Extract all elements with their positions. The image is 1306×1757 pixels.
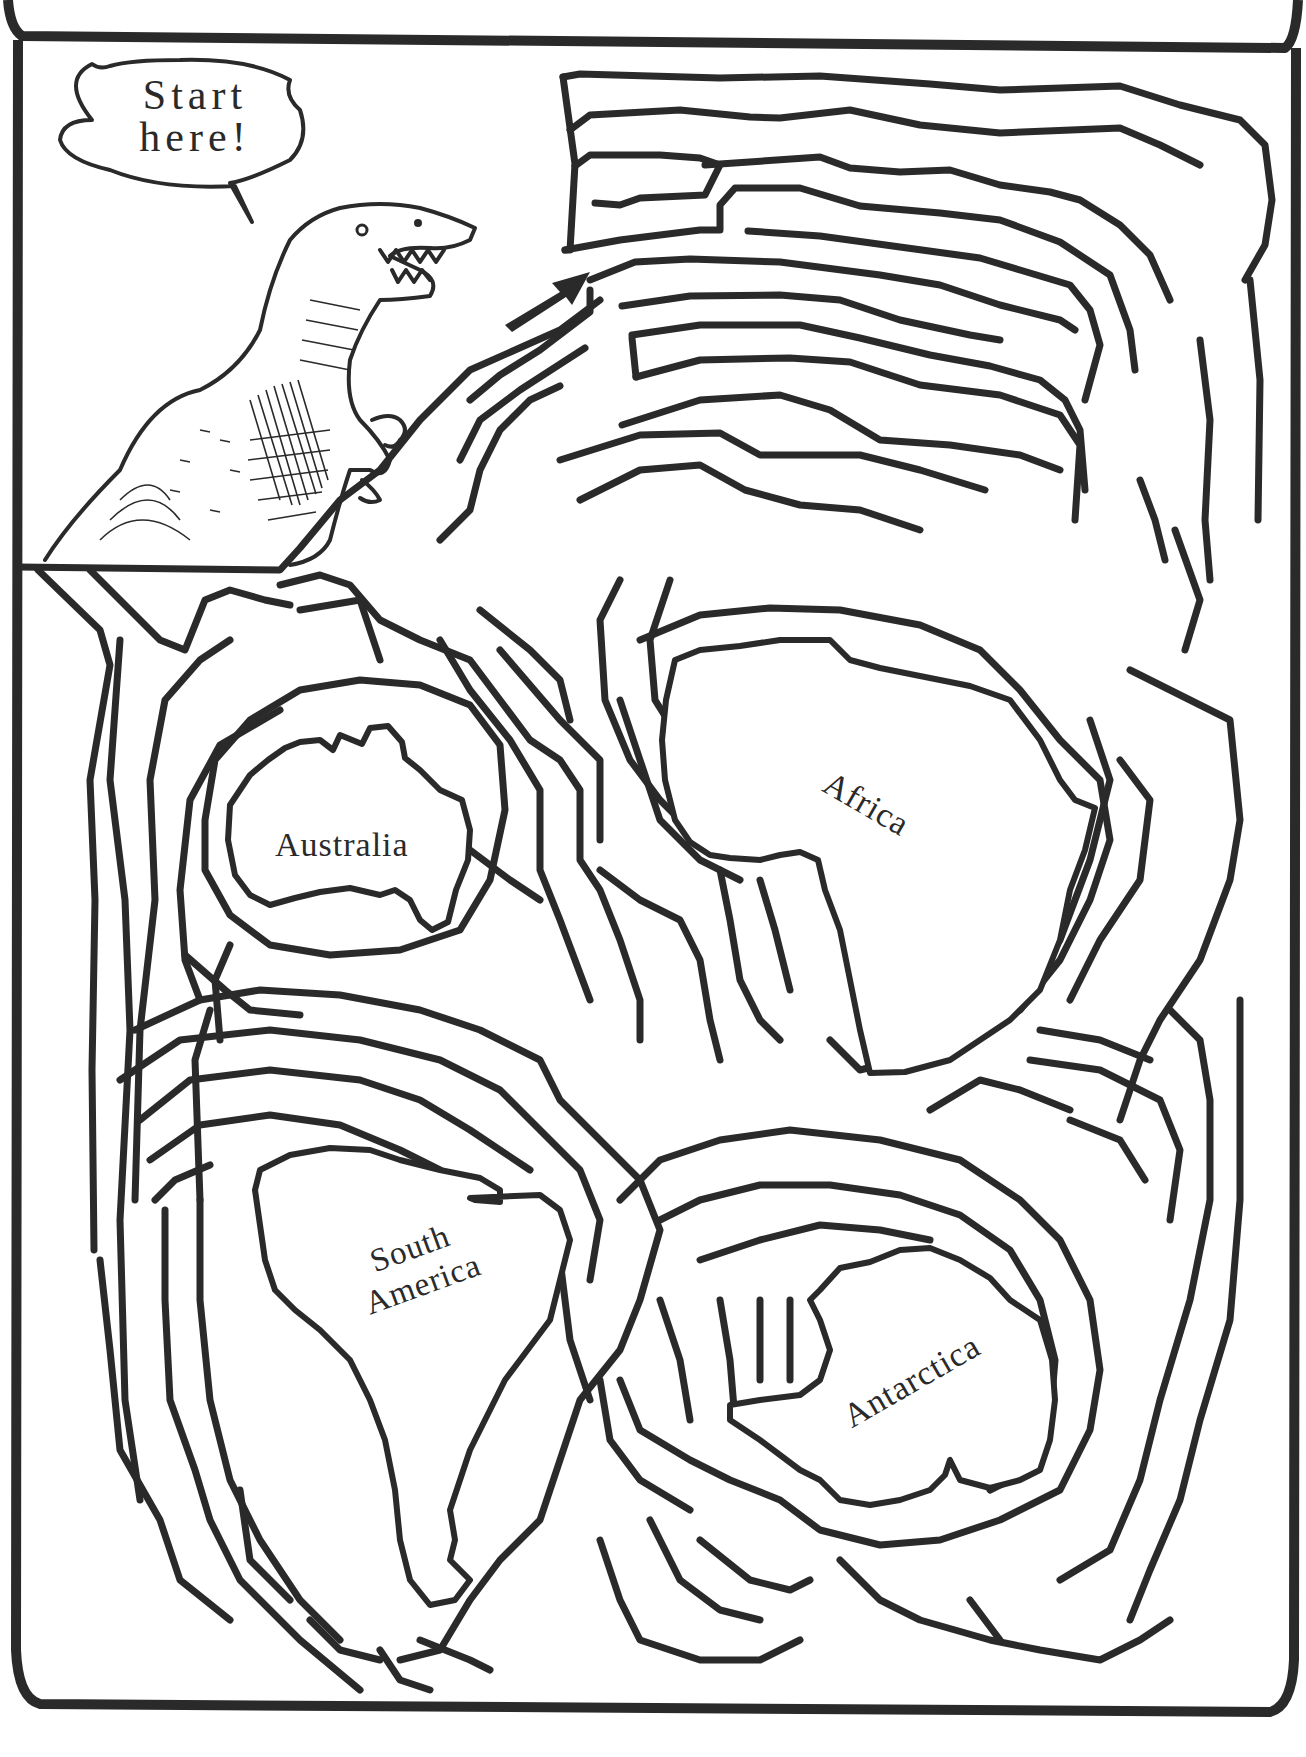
speech-bubble-line2: here! (120, 116, 270, 158)
maze-page: Start here! Australia Africa South Ameri… (0, 0, 1306, 1757)
speech-bubble-line1: Start (120, 74, 270, 116)
tyrannosaurus-illustration (45, 204, 475, 565)
speech-bubble: Start here! (120, 74, 270, 158)
top-banner-edge (8, 0, 1298, 48)
maze-walls-top (440, 74, 1272, 650)
start-area-border (18, 300, 600, 570)
maze-drawing (0, 0, 1306, 1757)
label-australia: Australia (275, 826, 409, 864)
